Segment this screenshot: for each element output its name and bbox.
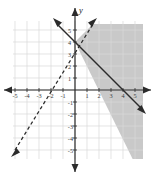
x-tick-3: 3	[109, 92, 112, 99]
x-tick-neg1: -1	[60, 92, 65, 99]
x-tick-4: 4	[121, 92, 124, 99]
y-tick-neg5: -5	[68, 147, 73, 154]
y-axis-label: y	[78, 5, 83, 15]
coordinate-plane-figure: -5 -4 -3 -2 -1 1 2 3 4 5 5 4 3 2 1 -1 -2…	[0, 0, 155, 179]
x-tick-1: 1	[85, 92, 88, 99]
x-axis-arrow-right	[143, 87, 151, 94]
y-tick-neg1: -1	[68, 99, 73, 106]
y-tick-neg3: -3	[68, 123, 73, 130]
y-axis-arrow-down	[72, 164, 79, 172]
x-axis-arrow-left	[4, 87, 12, 94]
y-tick-neg2: -2	[68, 111, 73, 118]
y-axis-arrow-up	[72, 8, 79, 16]
y-tick-neg4: -4	[68, 135, 73, 142]
solid-line-arrow-upper-left	[53, 18, 62, 27]
y-tick-4: 4	[68, 39, 71, 46]
y-tick-2: 2	[68, 63, 71, 70]
y-tick-1: 1	[68, 75, 71, 82]
graph-svg: -5 -4 -3 -2 -1 1 2 3 4 5 5 4 3 2 1 -1 -2…	[0, 0, 155, 179]
x-tick-neg3: -3	[36, 92, 41, 99]
x-tick-neg5: -5	[12, 92, 17, 99]
x-tick-5: 5	[133, 92, 136, 99]
x-tick-neg2: -2	[48, 92, 53, 99]
x-tick-neg4: -4	[24, 92, 29, 99]
y-tick-3: 3	[68, 51, 71, 58]
y-tick-5: 5	[68, 27, 71, 34]
x-tick-2: 2	[97, 92, 100, 99]
solution-region-shading	[75, 24, 143, 179]
